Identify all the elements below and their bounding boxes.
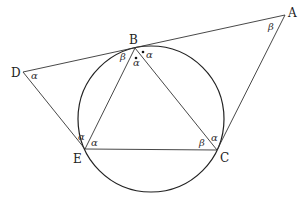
angle-label-C-top: α bbox=[211, 132, 218, 143]
segment-BE bbox=[85, 48, 135, 149]
point-label-C: C bbox=[220, 151, 229, 165]
angle-label-B-left: β bbox=[119, 51, 126, 62]
point-label-D: D bbox=[11, 66, 21, 80]
angle-dot-B-right bbox=[142, 51, 145, 54]
angle-label-A: β bbox=[267, 21, 274, 32]
segment-AC bbox=[217, 15, 285, 150]
point-label-E: E bbox=[73, 152, 82, 166]
geometry-diagram: A B C D E α β β α α α α β α bbox=[0, 0, 304, 199]
angle-label-E-right: α bbox=[91, 137, 98, 148]
point-label-A: A bbox=[287, 6, 297, 20]
angle-label-E-left: α bbox=[78, 131, 85, 142]
angle-label-C-left: β bbox=[198, 137, 205, 148]
segment-EC bbox=[85, 149, 217, 150]
segment-DE bbox=[23, 72, 85, 149]
segment-BC bbox=[135, 48, 217, 150]
segment-DA bbox=[23, 15, 285, 72]
angle-dot-B-bottom bbox=[135, 57, 138, 60]
angle-label-D: α bbox=[31, 70, 38, 81]
angle-label-B-right: α bbox=[146, 49, 153, 60]
point-label-B: B bbox=[129, 33, 138, 47]
